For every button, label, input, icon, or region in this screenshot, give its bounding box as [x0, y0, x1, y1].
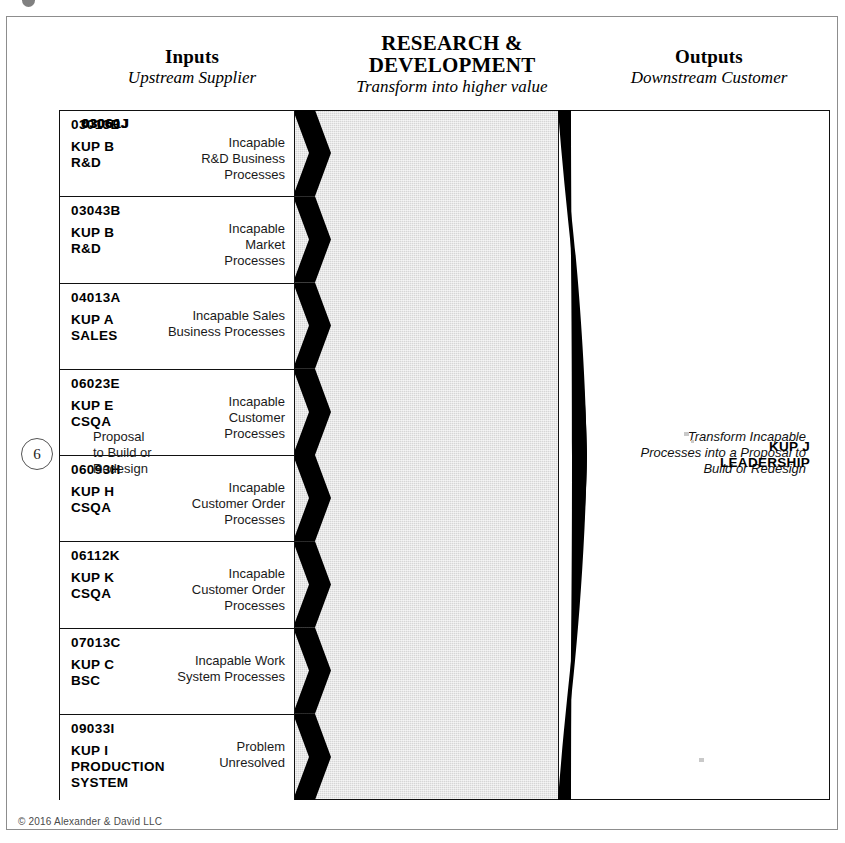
arrow-right-icon	[293, 369, 331, 455]
header-outputs-title: Outputs	[578, 46, 840, 67]
arrow-right-icon	[293, 714, 331, 800]
input-row-code: 06023E	[71, 376, 120, 391]
step-number-marker: 6	[21, 438, 53, 470]
input-row-code: 09033I	[71, 721, 115, 736]
arrow-right-icon	[293, 455, 331, 541]
input-row-kup: KUP B R&D	[71, 139, 114, 171]
input-row-kup: KUP B R&D	[71, 225, 114, 257]
arrow-right-icon	[293, 541, 331, 627]
input-row-description: Incapable Market Processes	[135, 221, 285, 269]
input-row[interactable]: 06112K KUP K CSQA Incapable Customer Ord…	[60, 542, 294, 628]
input-row[interactable]: 04013A KUP A SALES Incapable Sales Busin…	[60, 284, 294, 370]
header-center-title-line2: DEVELOPMENT	[306, 54, 598, 76]
input-row-kup: KUP C BSC	[71, 657, 114, 689]
input-row-kup: KUP E CSQA	[71, 398, 114, 430]
header-center-title-line1: RESEARCH &	[306, 32, 598, 54]
header-inputs-title: Inputs	[62, 46, 322, 67]
header-center: RESEARCH & DEVELOPMENT Transform into hi…	[306, 32, 598, 97]
header-inputs: Inputs Upstream Supplier	[62, 46, 322, 88]
input-arrow-chevrons	[293, 110, 333, 800]
input-row-code: 04013A	[71, 290, 121, 305]
input-row-kup: KUP H CSQA	[71, 484, 114, 516]
input-row-description: Incapable Sales Business Processes	[135, 308, 285, 340]
copyright-notice: © 2016 Alexander & David LLC	[18, 816, 162, 827]
scan-speck	[699, 758, 704, 762]
input-row[interactable]: 03043B KUP B R&D Incapable Market Proces…	[60, 197, 294, 283]
scan-speck	[691, 440, 694, 443]
header-center-subtitle: Transform into higher value	[306, 77, 598, 97]
scan-speck	[684, 432, 689, 436]
header-inputs-subtitle: Upstream Supplier	[62, 68, 322, 88]
input-row-code: 03043B	[71, 203, 121, 218]
scan-artifact-glyph	[22, 0, 35, 7]
arrow-right-icon	[293, 283, 331, 369]
sipoc-diagram: 03013B KUP B R&D Incapable R&D Business …	[59, 110, 830, 800]
output-kup: KUP J LEADERSHIP	[680, 439, 810, 471]
output-description: Proposal to Build or Redesign	[93, 429, 213, 477]
input-row-description: Incapable Customer Order Processes	[135, 480, 285, 528]
input-row-kup: KUP A SALES	[71, 312, 118, 344]
input-row-description: Incapable R&D Business Processes	[135, 135, 285, 183]
input-row-description: Problem Unresolved	[135, 739, 285, 771]
header-outputs: Outputs Downstream Customer	[578, 46, 840, 88]
output-code: 03061J	[82, 116, 129, 131]
input-row[interactable]: 07013C KUP C BSC Incapable Work System P…	[60, 629, 294, 715]
input-row-code: 07013C	[71, 635, 121, 650]
input-row[interactable]: 09033I KUP I PRODUCTION SYSTEM Problem U…	[60, 715, 294, 801]
arrow-right-icon	[293, 628, 331, 714]
arrow-right-icon	[293, 110, 331, 196]
input-row-description: Incapable Customer Order Processes	[135, 566, 285, 614]
column-headers: Inputs Upstream Supplier RESEARCH & DEVE…	[6, 36, 838, 98]
input-row-kup: KUP K CSQA	[71, 570, 114, 602]
input-row-description: Incapable Work System Processes	[135, 653, 285, 685]
arrow-right-icon	[293, 196, 331, 282]
input-row-code: 06112K	[71, 548, 120, 563]
header-outputs-subtitle: Downstream Customer	[578, 68, 840, 88]
